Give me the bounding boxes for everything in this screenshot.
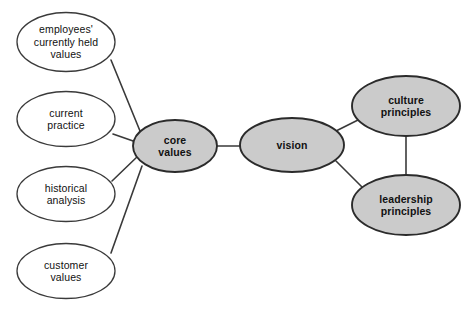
nodes-group bbox=[17, 13, 460, 299]
edge-historical-analysis-to-core-values bbox=[112, 156, 138, 181]
node-ellipse-historical-analysis[interactable] bbox=[17, 167, 115, 222]
edge-customer-values-to-core-values bbox=[111, 166, 142, 253]
node-ellipse-core-values[interactable] bbox=[133, 120, 217, 172]
edge-vision-to-leadership-principles bbox=[336, 161, 364, 189]
node-ellipse-employees-currently-held-values[interactable] bbox=[17, 13, 115, 72]
node-ellipse-customer-values[interactable] bbox=[17, 244, 115, 299]
node-ellipse-culture-principles[interactable] bbox=[352, 76, 460, 136]
diagram-svg bbox=[0, 0, 469, 317]
edge-vision-to-culture-principles bbox=[336, 119, 360, 131]
edge-current-practice-to-core-values bbox=[113, 134, 136, 142]
node-ellipse-current-practice[interactable] bbox=[17, 92, 115, 147]
diagram-canvas: employees' currently held valuescurrent … bbox=[0, 0, 469, 317]
node-ellipse-leadership-principles[interactable] bbox=[352, 175, 460, 235]
node-ellipse-vision[interactable] bbox=[240, 118, 344, 172]
